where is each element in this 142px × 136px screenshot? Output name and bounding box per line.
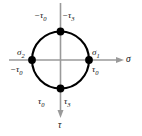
point-top — [57, 28, 65, 36]
tau-axis-label: τ — [58, 121, 61, 131]
label-top-left: −τ0 — [34, 11, 47, 22]
sigma-axis-arrowhead — [116, 57, 124, 63]
label-right-lower: τ0 — [92, 65, 98, 76]
point-left — [28, 56, 36, 64]
label-left-upper: σ2 — [17, 48, 25, 59]
tau-axis-arrowhead — [58, 110, 64, 118]
label-bottom-left: τ0 — [38, 97, 44, 108]
point-bottom — [57, 85, 65, 93]
label-bottom-right: τ3 — [64, 97, 70, 108]
sigma-axis-label: σ — [126, 55, 131, 65]
label-left-lower: −τ0 — [10, 65, 23, 76]
label-top-right: −τ3 — [62, 11, 75, 22]
mohr-circle-figure: −τ0 −τ3 σ2 −τ0 σ1 τ0 τ0 τ3 σ τ — [0, 0, 142, 136]
label-right-upper: σ1 — [92, 48, 100, 59]
